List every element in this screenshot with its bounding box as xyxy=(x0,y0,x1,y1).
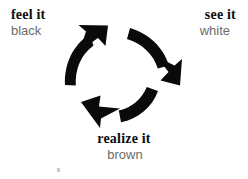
scan-speck xyxy=(57,168,60,172)
arrow-to-see-icon xyxy=(81,87,158,128)
cycle-node-see-title: see it xyxy=(200,7,240,23)
cycle-node-realize-title: realize it xyxy=(0,131,248,147)
cycle-arrow-group xyxy=(63,23,187,133)
arrow-to-feel-icon xyxy=(65,25,108,86)
cycle-node-realize-subtitle: brown xyxy=(0,147,248,163)
cycle-node-feel-title: feel it xyxy=(9,7,45,23)
arrow-to-realize-icon xyxy=(127,28,182,86)
cycle-node-see-subtitle: white xyxy=(200,23,240,39)
diagram-canvas: feel it black see it white realize it br… xyxy=(0,0,248,179)
cycle-node-feel: feel it black xyxy=(9,7,45,39)
cycle-node-realize: realize it brown xyxy=(0,131,248,163)
cycle-node-feel-subtitle: black xyxy=(9,23,45,39)
cycle-node-see: see it white xyxy=(200,7,240,39)
